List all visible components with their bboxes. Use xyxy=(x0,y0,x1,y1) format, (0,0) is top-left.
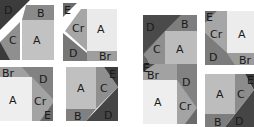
quilt-block-right-top-right: E Cr A D Br xyxy=(205,11,254,65)
label-A: A xyxy=(154,96,162,109)
label-A: A xyxy=(176,43,184,56)
label-C: C xyxy=(153,43,161,56)
label-D: D xyxy=(235,115,243,127)
label-Br: Br xyxy=(99,50,112,61)
label-A: A xyxy=(33,34,41,47)
quilt-block-right-bottom-right: A C E B D xyxy=(205,74,254,127)
block-shape: Br D A Cr E xyxy=(0,67,53,121)
label-D: D xyxy=(146,21,154,34)
label-E: E xyxy=(247,74,254,87)
label-B: B xyxy=(214,116,222,127)
quilt-block-right-top-left: D B C A E xyxy=(143,15,197,71)
block-shape: E Cr A D Br xyxy=(63,3,117,61)
label-Cr: Cr xyxy=(210,28,223,41)
label-A: A xyxy=(77,82,85,95)
label-D: D xyxy=(209,51,217,64)
label-C: C xyxy=(100,82,108,95)
label-Br: Br xyxy=(2,67,15,80)
block-shape: E Br D A Cr xyxy=(143,64,197,124)
label-B: B xyxy=(181,18,189,31)
label-Cr: Cr xyxy=(72,22,85,35)
label-B: B xyxy=(74,110,82,121)
label-D: D xyxy=(182,76,190,89)
quilt-block-left-top-left: D B C A xyxy=(0,0,54,60)
label-D: D xyxy=(39,73,47,86)
label-A: A xyxy=(216,88,224,101)
quilt-block-left-bottom-left: Br D A Cr E xyxy=(0,67,53,121)
label-A: A xyxy=(9,94,17,107)
block-shape: A C E B D xyxy=(205,74,254,127)
label-D: D xyxy=(4,4,12,17)
quilt-block-left-bottom-right: A C E B D xyxy=(66,67,118,121)
label-A: A xyxy=(97,23,105,36)
label-C: C xyxy=(9,34,17,47)
label-C: C xyxy=(237,88,245,101)
block-shape: E Cr A D Br xyxy=(205,11,254,65)
block-shape: D B C A xyxy=(0,0,54,60)
label-Cr: Cr xyxy=(34,95,47,108)
label-E: E xyxy=(64,4,71,17)
label-E: E xyxy=(109,68,116,81)
quilt-block-left-top-right: E Cr A D Br xyxy=(63,3,117,61)
label-B: B xyxy=(37,7,45,20)
label-Br: Br xyxy=(147,69,160,82)
label-Cr: Cr xyxy=(179,100,192,113)
label-Br: Br xyxy=(239,54,252,65)
block-shape: D B C A E xyxy=(143,15,197,71)
label-E: E xyxy=(44,109,51,121)
label-D: D xyxy=(104,109,112,121)
block-shape: A C E B D xyxy=(66,67,118,121)
label-E: E xyxy=(206,11,213,24)
quilt-block-right-bottom-left: E Br D A Cr xyxy=(143,64,197,124)
label-A: A xyxy=(238,28,246,41)
label-D: D xyxy=(69,47,77,60)
